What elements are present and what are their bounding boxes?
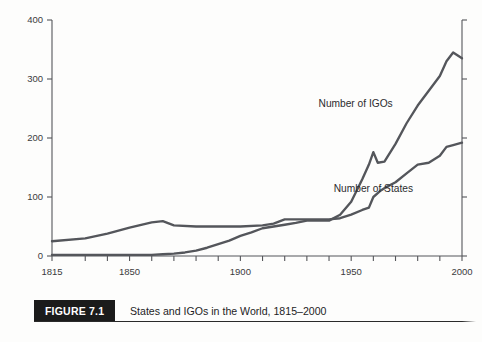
y-tick-label-400: 400 — [27, 14, 43, 25]
y-tick-group: 0100200300400 — [27, 14, 467, 261]
x-tick-label-1900: 1900 — [230, 266, 251, 277]
figure-caption-text: States and IGOs in the World, 1815–2000 — [130, 300, 327, 321]
y-tick-label-200: 200 — [27, 132, 43, 143]
x-tick-label-2000: 2000 — [451, 266, 472, 277]
chart-plot-area: 0100200300400 18151850190019502000 Numbe… — [0, 0, 482, 292]
y-tick-label-300: 300 — [27, 73, 43, 84]
figure-caption-bar: FIGURE 7.1 States and IGOs in the World,… — [34, 300, 454, 321]
x-tick-label-1850: 1850 — [119, 266, 140, 277]
figure-container: 0100200300400 18151850190019502000 Numbe… — [0, 0, 482, 342]
y-tick-label-0: 0 — [38, 250, 43, 261]
x-tick-label-1815: 1815 — [41, 266, 62, 277]
series-label-number-of-states: Number of States — [334, 183, 413, 194]
x-tick-group: 18151850190019502000 — [41, 256, 472, 277]
caption-underline-rule — [34, 321, 462, 322]
x-tick-label-1950: 1950 — [341, 266, 362, 277]
figure-number-badge: FIGURE 7.1 — [34, 300, 115, 321]
y-tick-label-100: 100 — [27, 191, 43, 202]
line-chart-svg: 0100200300400 18151850190019502000 Numbe… — [0, 0, 482, 292]
series-group — [52, 52, 462, 254]
series-label-number-of-igos: Number of IGOs — [319, 98, 393, 109]
chart-axes — [52, 20, 462, 256]
